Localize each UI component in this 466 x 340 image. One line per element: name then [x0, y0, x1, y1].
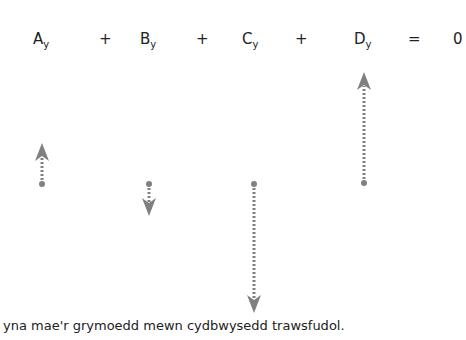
arrow-d-y-icon — [357, 72, 371, 186]
force-arrows — [0, 0, 466, 340]
arrow-b-y-icon — [142, 181, 156, 216]
caption: yna mae'r grymoedd mewn cydbwysedd traws… — [3, 318, 345, 333]
arrow-a-y-icon — [35, 143, 49, 187]
arrow-c-y-icon — [247, 181, 261, 313]
